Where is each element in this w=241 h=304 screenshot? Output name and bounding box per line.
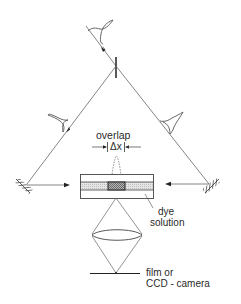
optical-setup-diagram: overlap Δx dye solution film or CCD - ca… [0, 0, 241, 304]
lens-icon [92, 230, 142, 241]
left-horizontal-beam [27, 183, 70, 187]
incoming-pulse-icon [88, 20, 113, 44]
right-mirror-icon [202, 178, 220, 194]
diagram-canvas [0, 0, 241, 304]
right-pulse-icon [160, 112, 183, 134]
left-mirror-icon [15, 178, 33, 194]
overlap-label: overlap [96, 130, 130, 141]
solution-label: solution [150, 218, 184, 228]
delta-x-label: Δx [110, 142, 122, 152]
left-beam [27, 66, 116, 184]
dye-label: dye [158, 207, 174, 217]
dye-cell [81, 175, 154, 199]
film-label: film or [146, 268, 173, 278]
right-beam [116, 66, 209, 184]
left-pulse-icon [48, 114, 68, 132]
right-horizontal-beam [165, 182, 209, 186]
ccd-camera-label: CCD - camera [146, 279, 210, 289]
overlap-region [108, 182, 125, 190]
